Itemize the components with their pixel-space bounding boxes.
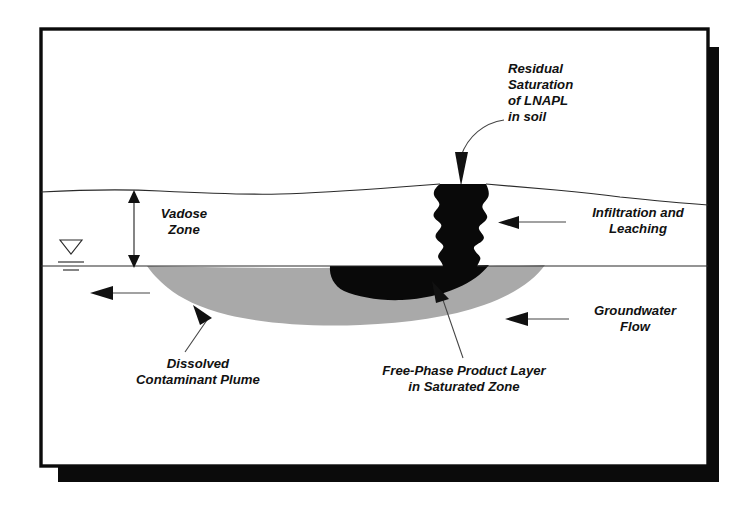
free-phase-layer-line-1: Free-Phase Product Layer xyxy=(382,363,546,378)
infiltration-leaching-line-1: Infiltration and xyxy=(592,205,685,220)
figure-plate xyxy=(41,29,708,466)
cross-section-diagram: Residual Saturation of LNAPL in soil Inf… xyxy=(0,0,749,509)
residual-saturation-line-3: of LNAPL xyxy=(508,93,568,108)
free-phase-layer-line-2: in Saturated Zone xyxy=(408,379,519,394)
vadose-zone-line-1: Vadose xyxy=(161,206,207,221)
vadose-zone-line-2: Zone xyxy=(167,222,200,237)
figure-root: Residual Saturation of LNAPL in soil Inf… xyxy=(0,0,749,509)
infiltration-leaching-line-2: Leaching xyxy=(609,221,667,236)
residual-saturation-line-2: Saturation xyxy=(508,77,573,92)
dissolved-plume-line-2: Contaminant Plume xyxy=(136,372,260,387)
dissolved-plume-line-1: Dissolved xyxy=(167,356,230,371)
groundwater-flow-line-1: Groundwater xyxy=(594,303,677,318)
residual-saturation-line-1: Residual xyxy=(508,61,563,76)
residual-saturation-line-4: in soil xyxy=(508,109,546,124)
groundwater-flow-line-2: Flow xyxy=(620,319,651,334)
